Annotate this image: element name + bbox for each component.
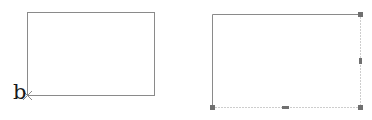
- left-rectangle[interactable]: [28, 13, 155, 96]
- handle-top-right[interactable]: [358, 12, 363, 17]
- handle-bottom-right[interactable]: [358, 105, 363, 110]
- handle-bottom-left[interactable]: [210, 105, 215, 110]
- handle-mid-bottom[interactable]: [282, 106, 289, 109]
- handle-mid-right[interactable]: [359, 58, 362, 64]
- diagram-canvas: [0, 0, 372, 120]
- vertex-label-b: b: [13, 82, 26, 103]
- right-rectangle[interactable]: [210, 12, 363, 110]
